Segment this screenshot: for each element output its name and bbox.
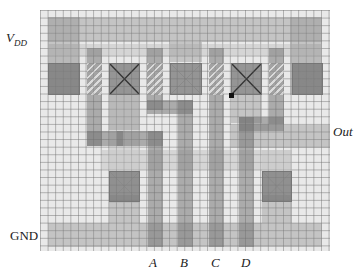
contact-cross-icon: [110, 64, 139, 94]
contact-cut: [48, 63, 80, 95]
input-a-label: A: [149, 255, 157, 271]
metal-wire: [48, 17, 322, 42]
contact-cross-icon: [49, 64, 79, 94]
contact-cross-icon: [171, 64, 201, 94]
metal-wire: [170, 42, 202, 62]
transistor-gate: [269, 63, 284, 95]
output-node-dot: [229, 93, 234, 98]
poly-wire: [148, 131, 163, 247]
contact-cut: [292, 63, 323, 95]
contact-cut: [170, 63, 202, 95]
vdd-label: VDD: [6, 30, 27, 48]
transistor-gate: [87, 63, 102, 95]
contact-cross-icon: [232, 64, 261, 94]
contact-cross-icon: [263, 172, 291, 201]
contact-cross-icon: [293, 64, 322, 94]
out-label: Out: [333, 124, 353, 140]
metal-wire: [109, 95, 140, 130]
contact-cut: [109, 63, 140, 95]
poly-wire: [178, 100, 193, 247]
input-b-label: B: [180, 255, 188, 271]
transistor-gate: [209, 63, 224, 95]
poly-wire: [239, 117, 254, 247]
transistor-gate: [147, 63, 163, 95]
contact-cross-icon: [110, 172, 139, 201]
input-d-label: D: [241, 255, 250, 271]
diffusion-region: [102, 150, 292, 170]
layout-diagram: VDD GND Out A B C D: [0, 0, 363, 279]
input-c-label: C: [211, 255, 220, 271]
gnd-label: GND: [10, 228, 38, 244]
contact-cut: [262, 171, 292, 202]
contact-cut: [231, 63, 262, 95]
contact-cut: [109, 171, 140, 202]
